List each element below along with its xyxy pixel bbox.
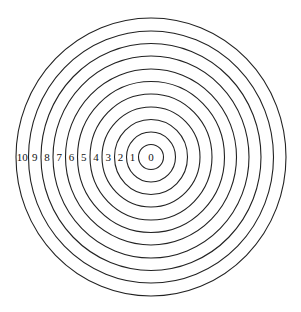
ring-label-3: 3 xyxy=(106,151,112,163)
ring-label-0: 0 xyxy=(148,151,154,163)
ring-label-4: 4 xyxy=(93,151,99,163)
ring-label-9: 9 xyxy=(32,151,38,163)
ring-label-2: 2 xyxy=(118,151,124,163)
ring-label-7: 7 xyxy=(57,151,63,163)
ring-label-5: 5 xyxy=(81,151,87,163)
concentric-rings-diagram: 012345678910 xyxy=(0,0,301,312)
ring-label-6: 6 xyxy=(69,151,75,163)
ring-label-1: 1 xyxy=(130,151,136,163)
ring-label-10: 10 xyxy=(17,151,29,163)
ring-label-8: 8 xyxy=(44,151,50,163)
